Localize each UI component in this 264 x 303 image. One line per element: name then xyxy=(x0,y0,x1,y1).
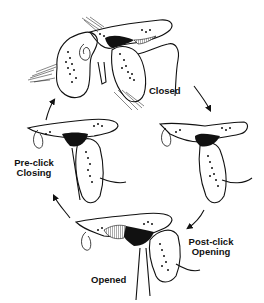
right-lobe-shape xyxy=(76,139,103,203)
top-bar-shape xyxy=(90,20,172,49)
label-pre-click-closing: Pre-click Closing xyxy=(9,158,59,178)
label-closed-line-1: Closed xyxy=(149,85,181,96)
right-lobe-shape xyxy=(112,47,146,102)
arrow-pre-click-closing-to-closed xyxy=(46,100,54,120)
right-tab-shape xyxy=(100,178,126,183)
stalk-shape xyxy=(136,248,150,300)
stage-closed-illustration xyxy=(28,17,179,110)
fringe-top-icon xyxy=(82,17,104,32)
label-opened-line-1: Opened xyxy=(91,274,126,285)
label-closed: Closed xyxy=(149,86,181,96)
arrow-closed-to-post-click-opening xyxy=(194,86,210,110)
diagram-artwork xyxy=(0,0,264,303)
hatched-band-shape xyxy=(134,36,156,44)
arrow-opened-to-pre-click-closing xyxy=(54,196,70,218)
label-post-click-opening: Post-click Opening xyxy=(186,237,236,257)
spiral-icon xyxy=(80,44,91,60)
fringe-left-icon xyxy=(28,64,57,82)
cycle-diagram: Closed Post-click Opening Opened Pre-cli… xyxy=(0,0,264,303)
stalk-shape xyxy=(98,62,106,84)
label-post-click-opening-line-2: Opening xyxy=(186,247,236,257)
right-lobe-shape xyxy=(199,143,226,203)
stage-opened-illustration xyxy=(76,213,200,300)
left-lobe-shape xyxy=(57,32,98,97)
label-opened: Opened xyxy=(91,275,126,285)
arrow-post-click-opening-to-opened xyxy=(188,210,204,228)
label-pre-click-closing-line-2: Closing xyxy=(9,168,59,178)
stage-post-click-opening-illustration xyxy=(160,122,252,203)
spiral-icon xyxy=(82,232,91,250)
